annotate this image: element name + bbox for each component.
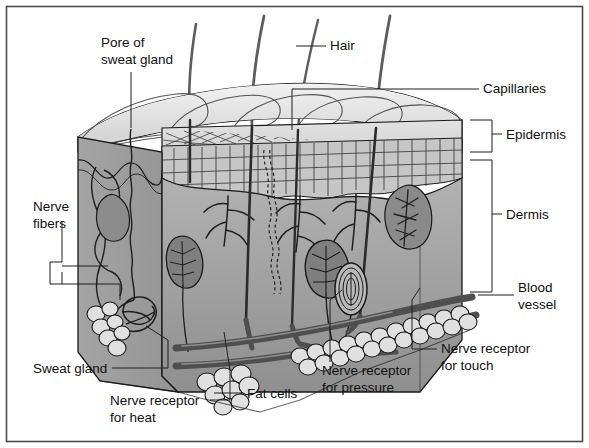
label-nerve-fibers-line1: Nerve: [33, 199, 69, 214]
label-pore-of-sweat-gland-line1: Pore of: [101, 35, 145, 50]
label-fat-cells: Fat cells: [247, 386, 298, 401]
label-hair: Hair: [330, 38, 355, 53]
label-nerve-fibers-line2: fibers: [33, 216, 66, 231]
label-capillaries: Capillaries: [483, 81, 546, 96]
skin-diagram-figure: Pore of sweat gland Hair Capillaries Epi…: [0, 0, 589, 448]
skin-cross-section-svg: Pore of sweat gland Hair Capillaries Epi…: [0, 0, 589, 448]
label-pore-of-sweat-gland-line2: sweat gland: [101, 52, 173, 67]
label-nerve-receptor-for-touch-line1: Nerve receptor: [441, 341, 531, 356]
label-dermis: Dermis: [506, 207, 549, 222]
label-nerve-receptor-for-pressure-line1: Nerve receptor: [322, 363, 412, 378]
label-blood-vessel-line2: vessel: [518, 297, 556, 312]
label-epidermis: Epidermis: [506, 127, 566, 142]
label-nerve-receptor-for-touch-line2: for touch: [441, 358, 494, 373]
label-nerve-receptor-for-heat-line1: Nerve receptor: [110, 393, 200, 408]
label-nerve-receptor-for-pressure-line2: for pressure: [322, 380, 394, 395]
label-sweat-gland: Sweat gland: [33, 361, 107, 376]
label-nerve-receptor-for-heat-line2: for heat: [110, 410, 156, 425]
label-blood-vessel-line1: Blood: [518, 280, 553, 295]
